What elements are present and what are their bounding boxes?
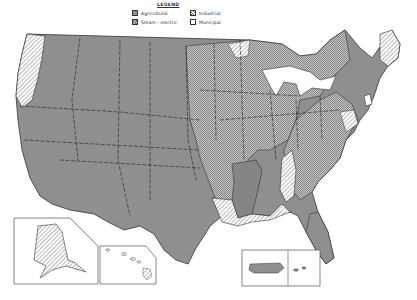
inset-hawaii: [100, 246, 156, 284]
legend-item-steam-electric: Steam - electric: [132, 19, 177, 25]
legend-item-agricultural: Agricultural: [132, 10, 168, 16]
inset-puerto-rico: [242, 250, 320, 286]
region-industrial-maine: [380, 30, 400, 66]
industrial-swatch-icon: [190, 10, 196, 16]
region-industrial-alabama: [280, 150, 296, 202]
inset-alaska: [14, 218, 98, 284]
agricultural-swatch-icon: [132, 10, 138, 16]
legend-item-municipal: Municipal: [190, 19, 221, 25]
steam-electric-swatch-icon: [132, 19, 138, 25]
legend: LEGEND Agricultural Steam - electric Ind…: [130, 2, 260, 36]
us-water-use-map: [0, 0, 417, 300]
legend-title: LEGEND: [157, 2, 179, 7]
municipal-swatch-icon: [190, 19, 196, 25]
legend-item-industrial: Industrial: [190, 10, 221, 16]
